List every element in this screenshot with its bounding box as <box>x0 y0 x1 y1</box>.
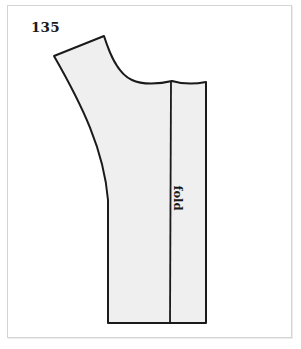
pattern-piece <box>0 0 301 349</box>
fold-label: fold <box>171 185 185 210</box>
pattern-outline <box>54 36 206 323</box>
